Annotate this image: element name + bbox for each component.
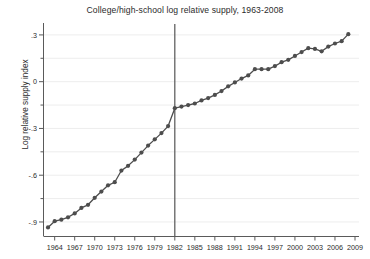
data-point-marker (73, 211, 77, 215)
data-point-marker (79, 206, 83, 210)
data-point-marker (219, 89, 223, 93)
x-axis-tick-label: 1967 (67, 243, 83, 252)
data-point-marker (333, 41, 337, 45)
data-point-marker (253, 67, 257, 71)
x-axis-tick-label: 1997 (267, 243, 283, 252)
y-axis-tick-label: -.9 (29, 218, 37, 227)
data-point-marker (206, 96, 210, 100)
x-axis-tick-label: 2003 (307, 243, 323, 252)
data-point-marker (273, 64, 277, 68)
data-point-marker (166, 124, 170, 128)
data-point-marker (346, 32, 350, 36)
data-point-marker (146, 143, 150, 147)
data-point-marker (293, 54, 297, 58)
x-axis-tick-label: 2006 (327, 243, 343, 252)
data-point-marker (233, 80, 237, 84)
data-point-marker (306, 46, 310, 50)
x-axis-tick-label: 1985 (187, 243, 203, 252)
plot-area (44, 24, 359, 236)
data-point-marker (193, 101, 197, 105)
x-axis-tick-label: 1979 (147, 243, 163, 252)
data-point-marker (153, 137, 157, 141)
data-point-marker (259, 67, 263, 71)
data-point-marker (199, 98, 203, 102)
data-point-marker (213, 93, 217, 97)
x-axis-tick-label: 1970 (87, 243, 103, 252)
data-point-marker (246, 73, 250, 77)
x-axis-tick-label: 1964 (47, 243, 63, 252)
x-axis-tick-label: 1976 (127, 243, 143, 252)
data-point-marker (106, 183, 110, 187)
data-point-marker (186, 103, 190, 107)
data-point-marker (93, 196, 97, 200)
data-point-marker (119, 168, 123, 172)
line-chart-svg (44, 24, 359, 236)
x-axis-tick-label: 1973 (107, 243, 123, 252)
data-point-marker (126, 164, 130, 168)
data-point-marker (239, 76, 243, 80)
data-point-marker (113, 180, 117, 184)
data-point-marker (320, 49, 324, 53)
data-point-marker (133, 158, 137, 162)
data-point-marker (340, 39, 344, 43)
data-point-marker (173, 106, 177, 110)
y-axis-tick-label: .3 (31, 31, 37, 40)
data-point-marker (300, 50, 304, 54)
chart-container: College/high-school log relative supply,… (0, 0, 370, 259)
data-point-marker (179, 105, 183, 109)
x-axis-tick-label: 2000 (287, 243, 303, 252)
x-axis-tick-label: 1982 (167, 243, 183, 252)
data-point-marker (59, 218, 63, 222)
y-axis-tick-label: -.3 (29, 124, 37, 133)
chart-title: College/high-school log relative supply,… (0, 5, 370, 15)
x-axis-tick-label: 1994 (247, 243, 263, 252)
data-point-marker (286, 58, 290, 62)
data-point-marker (139, 151, 143, 155)
data-point-marker (99, 189, 103, 193)
y-axis-tick-label: -.6 (29, 171, 37, 180)
data-point-marker (279, 60, 283, 64)
data-point-marker (159, 131, 163, 135)
data-point-marker (46, 225, 50, 229)
y-axis-label: Log relative supply index (21, 25, 30, 185)
x-axis-tick-label: 1988 (207, 243, 223, 252)
data-point-marker (53, 219, 57, 223)
data-point-marker (66, 215, 70, 219)
y-axis-tick-label: 0 (33, 77, 37, 86)
data-point-marker (226, 84, 230, 88)
x-axis-tick-label: 2009 (347, 243, 363, 252)
x-axis-tick-label: 1991 (227, 243, 243, 252)
data-point-marker (86, 203, 90, 207)
data-point-marker (266, 67, 270, 71)
data-point-marker (313, 47, 317, 51)
data-point-marker (326, 45, 330, 49)
